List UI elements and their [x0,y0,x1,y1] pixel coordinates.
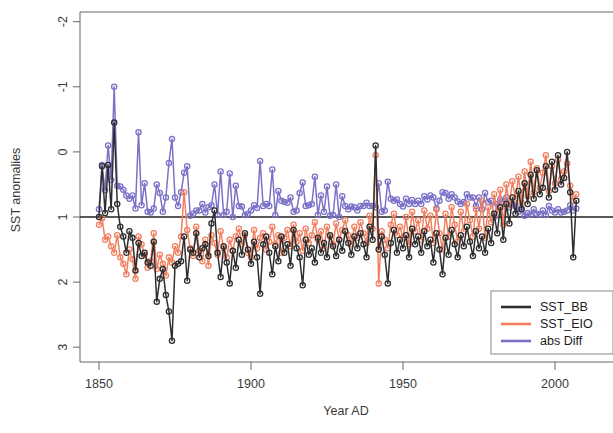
chart-figure: 3210-1-2 1850190019502000 Year AD SST an… [0,0,613,433]
x-tick-label: 2000 [541,377,569,391]
x-axis-label: Year AD [323,404,368,418]
y-tick-label: 0 [56,148,70,155]
sst-anomalies-line-chart: 3210-1-2 1850190019502000 Year AD SST an… [0,0,613,433]
y-tick-label: 3 [56,344,70,351]
legend-label: SST_EIO [540,317,593,331]
x-tick-label: 1900 [237,377,265,391]
legend-label: abs Diff [540,334,583,348]
y-tick-label: -2 [56,16,70,27]
y-tick-label: -1 [56,81,70,92]
y-tick-label: 1 [56,213,70,220]
y-axis-label: SST anomalies [9,148,23,233]
x-tick-label: 1950 [389,377,417,391]
y-tick-label: 2 [56,279,70,286]
x-tick-label: 1850 [85,377,113,391]
legend-label: SST_BB [540,300,588,314]
chart-legend: SST_BBSST_EIOabs Diff [491,291,613,354]
